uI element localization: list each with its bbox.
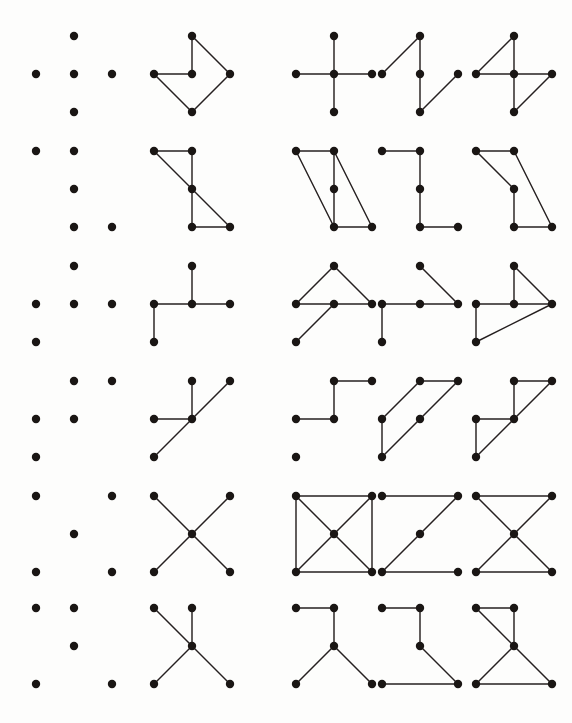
pattern-dot <box>548 492 556 500</box>
pattern-dot <box>188 530 196 538</box>
pattern-cell <box>282 480 382 596</box>
connector-line <box>334 496 372 534</box>
pattern-dot <box>32 147 40 155</box>
pattern-dot <box>454 680 462 688</box>
pattern-dot <box>416 530 424 538</box>
pattern-dot <box>472 492 480 500</box>
pattern-dot <box>188 147 196 155</box>
pattern-dot <box>378 680 386 688</box>
pattern-dot <box>378 147 386 155</box>
pattern-dot <box>330 604 338 612</box>
pattern-dot <box>330 530 338 538</box>
pattern-dot <box>150 70 158 78</box>
pattern-cell <box>462 592 562 708</box>
pattern-cell <box>140 135 240 251</box>
pattern-cell <box>22 592 122 708</box>
pattern-dot <box>108 492 116 500</box>
pattern-row <box>0 135 572 251</box>
pattern-dot <box>510 223 518 231</box>
pattern-dot <box>330 642 338 650</box>
connector-line <box>192 189 230 227</box>
connector-line <box>192 36 230 74</box>
pattern-dot <box>188 377 196 385</box>
connector-line <box>334 151 372 227</box>
pattern-dot <box>416 642 424 650</box>
pattern-dot <box>226 300 234 308</box>
pattern-dot <box>548 680 556 688</box>
pattern-row <box>0 365 572 481</box>
pattern-cell <box>462 135 562 251</box>
pattern-dot <box>378 492 386 500</box>
connector-line <box>476 608 514 646</box>
connector-line <box>296 496 334 534</box>
pattern-dot <box>548 300 556 308</box>
pattern-dot <box>70 262 78 270</box>
pattern-dot <box>292 300 300 308</box>
pattern-dot <box>416 223 424 231</box>
connector-line <box>154 74 192 112</box>
pattern-dot <box>188 262 196 270</box>
pattern-cell <box>22 365 122 481</box>
pattern-dot <box>330 415 338 423</box>
pattern-dot <box>378 70 386 78</box>
pattern-dot <box>70 642 78 650</box>
pattern-dot <box>548 223 556 231</box>
connector-line <box>476 496 514 534</box>
pattern-cell <box>140 250 240 366</box>
pattern-dot <box>472 147 480 155</box>
connector-line <box>154 151 192 189</box>
pattern-cell <box>462 250 562 366</box>
connector-line <box>476 36 514 74</box>
pattern-dot <box>378 338 386 346</box>
pattern-dot <box>150 568 158 576</box>
pattern-cell <box>140 365 240 481</box>
dot-pattern-grid <box>0 0 572 723</box>
pattern-cell <box>462 480 562 596</box>
pattern-dot <box>472 604 480 612</box>
pattern-dot <box>226 377 234 385</box>
pattern-cell <box>22 250 122 366</box>
pattern-cell <box>462 365 562 481</box>
pattern-cell <box>368 20 468 136</box>
pattern-dot <box>108 680 116 688</box>
connector-line <box>382 419 420 457</box>
pattern-dot <box>226 70 234 78</box>
pattern-dot <box>188 32 196 40</box>
connector-line <box>296 151 334 227</box>
pattern-dot <box>108 223 116 231</box>
pattern-dot <box>226 568 234 576</box>
pattern-dot <box>150 453 158 461</box>
connector-line <box>192 496 230 534</box>
pattern-dot <box>32 300 40 308</box>
pattern-dot <box>188 300 196 308</box>
connector-line <box>382 534 420 572</box>
pattern-dot <box>510 642 518 650</box>
pattern-row <box>0 250 572 366</box>
pattern-dot <box>32 680 40 688</box>
pattern-dot <box>416 604 424 612</box>
connector-line <box>296 304 334 342</box>
pattern-dot <box>188 70 196 78</box>
pattern-dot <box>292 415 300 423</box>
pattern-dot <box>378 415 386 423</box>
pattern-cell <box>368 480 468 596</box>
pattern-dot <box>292 453 300 461</box>
connector-line <box>476 419 514 457</box>
pattern-dot <box>70 300 78 308</box>
pattern-dot <box>378 300 386 308</box>
pattern-dot <box>416 32 424 40</box>
pattern-dot <box>150 338 158 346</box>
pattern-dot <box>188 108 196 116</box>
connector-line <box>476 304 552 342</box>
pattern-dot <box>32 568 40 576</box>
connector-line <box>420 381 458 419</box>
connector-line <box>514 496 552 534</box>
pattern-dot <box>548 70 556 78</box>
pattern-dot <box>416 185 424 193</box>
pattern-dot <box>292 604 300 612</box>
pattern-dot <box>330 223 338 231</box>
connector-line <box>192 534 230 572</box>
pattern-dot <box>510 530 518 538</box>
pattern-dot <box>416 377 424 385</box>
connector-line <box>476 646 514 684</box>
